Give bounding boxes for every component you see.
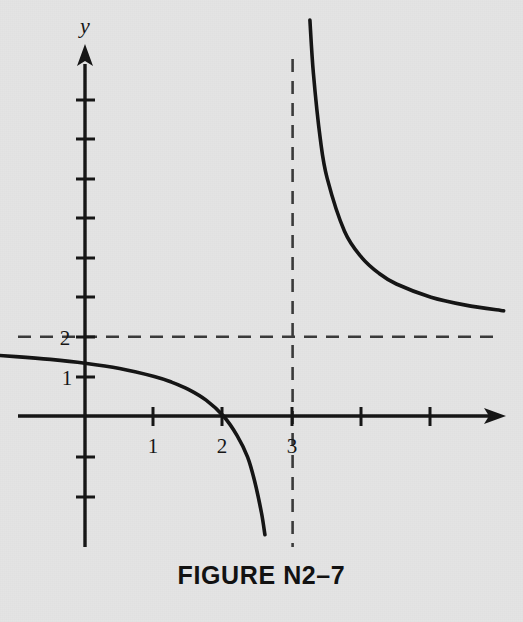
x-tick-label-3: 3 — [287, 434, 298, 458]
figure-caption: FIGURE N2–7 — [0, 561, 523, 590]
y-axis-arrowhead — [77, 44, 93, 66]
x-tick-label-1: 1 — [148, 434, 159, 458]
figure-page: y 1 2 3 1 2 FIGURE N2–7 — [0, 0, 523, 622]
curve-right-branch — [310, 20, 504, 311]
y-tick-label-1: 1 — [62, 366, 73, 390]
y-axis-name-label: y — [78, 13, 90, 38]
graph-canvas: y 1 2 3 1 2 — [0, 0, 523, 622]
y-tick-label-2: 2 — [60, 326, 71, 350]
x-tick-label-2: 2 — [217, 434, 228, 458]
